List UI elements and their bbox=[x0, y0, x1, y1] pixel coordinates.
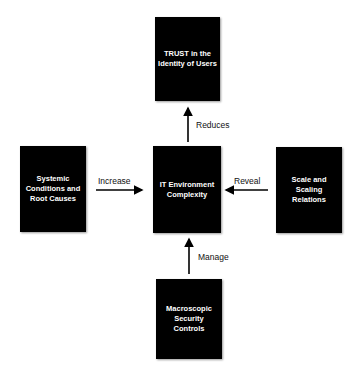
edge-label-manage: Manage bbox=[198, 252, 229, 262]
edge-label-reveal: Reveal bbox=[234, 176, 260, 186]
node-it-environment-complexity: IT Environment Complexity bbox=[153, 146, 221, 233]
node-macroscopic-security-controls: Macroscopic Security Controls bbox=[156, 279, 222, 359]
node-systemic-conditions: Systemic Conditions and Root Causes bbox=[20, 146, 86, 232]
edge-label-reduces: Reduces bbox=[196, 120, 230, 130]
node-scale-scaling-relations: Scale and Scaling Relations bbox=[276, 147, 342, 233]
node-trust-identity: TRUST in the Identity of Users bbox=[155, 17, 220, 101]
edge-label-increase: Increase bbox=[98, 176, 131, 186]
